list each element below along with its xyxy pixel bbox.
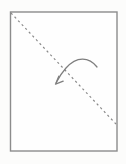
- paper-sheet: [11, 12, 118, 151]
- origami-step-diagram: [0, 0, 126, 164]
- diagram-canvas: [0, 0, 126, 164]
